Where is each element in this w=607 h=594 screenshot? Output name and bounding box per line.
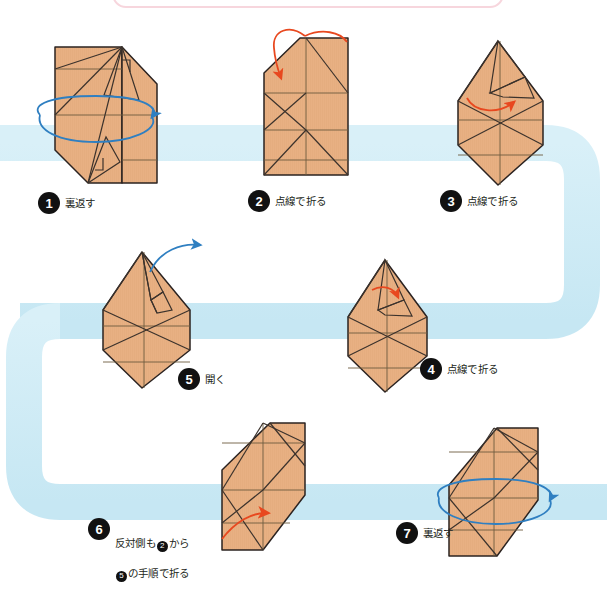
origami-instruction-sheet: .pp{fill:url(#grain);stroke:#2b2321;stro… xyxy=(0,0,607,594)
step-label-6[interactable]: 6 反対側も2から 5の手順で折る xyxy=(88,518,189,582)
motion-arrows xyxy=(0,0,607,594)
arrow-step-5-open xyxy=(150,245,200,272)
arrow-step-7-rotate xyxy=(438,479,551,524)
step-6-line2: 5の手順で折る xyxy=(115,567,189,579)
arrow-step-2-fold xyxy=(274,30,347,78)
arrow-step-3-fold xyxy=(467,98,514,110)
step-caption-4: 点線で折る xyxy=(447,358,498,376)
arrow-step-6-sweep xyxy=(222,513,268,539)
step-caption-3: 点線で折る xyxy=(467,190,518,208)
step-badge-5: 5 xyxy=(178,368,200,390)
step-badge-1: 1 xyxy=(38,192,60,214)
arrow-step-4-fold xyxy=(372,287,398,297)
step-label-1[interactable]: 1 裏返す xyxy=(38,192,96,214)
step-caption-7: 裏返す xyxy=(423,522,454,540)
step-badge-3: 3 xyxy=(440,190,462,212)
inline-badge-2: 2 xyxy=(157,541,168,552)
step-caption-2: 点線で折る xyxy=(275,190,326,208)
inline-badge-5: 5 xyxy=(116,571,127,582)
step-label-3[interactable]: 3 点線で折る xyxy=(440,190,518,212)
step-label-2[interactable]: 2 点線で折る xyxy=(248,190,326,212)
step-6-line1: 反対側も2から xyxy=(115,537,189,549)
step-label-4[interactable]: 4 点線で折る xyxy=(420,358,498,380)
step-badge-4: 4 xyxy=(420,358,442,380)
step-badge-7: 7 xyxy=(396,522,418,544)
arrow-step-1-rotate xyxy=(38,96,154,142)
step-label-7[interactable]: 7 裏返す xyxy=(396,522,454,544)
step-caption-1: 裏返す xyxy=(65,192,96,210)
step-caption-5: 開く xyxy=(205,368,225,386)
step-label-5[interactable]: 5 開く xyxy=(178,368,225,390)
step-caption-6: 反対側も2から 5の手順で折る xyxy=(115,518,189,582)
step-badge-6: 6 xyxy=(88,518,110,540)
step-badge-2: 2 xyxy=(248,190,270,212)
